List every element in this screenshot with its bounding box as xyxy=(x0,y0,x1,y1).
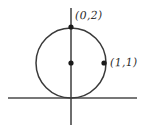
right-point-dot xyxy=(101,60,106,65)
circle-diagram-figure: (0,2) (1,1) xyxy=(0,0,143,129)
top-point-label: (0,2) xyxy=(75,10,103,22)
top-point-dot xyxy=(68,24,73,29)
center-point-dot xyxy=(68,60,73,65)
right-point-label: (1,1) xyxy=(110,57,138,69)
